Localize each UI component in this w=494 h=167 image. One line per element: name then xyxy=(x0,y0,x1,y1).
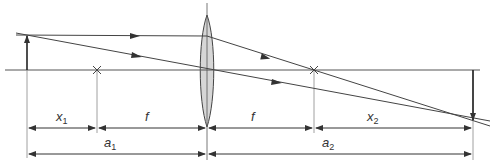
label-x2: x2 xyxy=(367,110,379,126)
label-f-right-main: f xyxy=(251,109,255,124)
label-f-left-main: f xyxy=(145,109,149,124)
label-a1-sub: 1 xyxy=(111,142,116,152)
label-a2: a2 xyxy=(322,136,334,152)
label-x2-sub: 2 xyxy=(374,116,379,126)
label-f-right: f xyxy=(251,110,255,123)
label-x1: x1 xyxy=(56,110,68,126)
label-f-left: f xyxy=(145,110,149,123)
label-a2-sub: 2 xyxy=(329,142,334,152)
central-ray xyxy=(16,33,490,121)
label-x1-sub: 1 xyxy=(63,116,68,126)
lens-diagram xyxy=(0,0,494,167)
label-a1: a1 xyxy=(104,136,116,152)
